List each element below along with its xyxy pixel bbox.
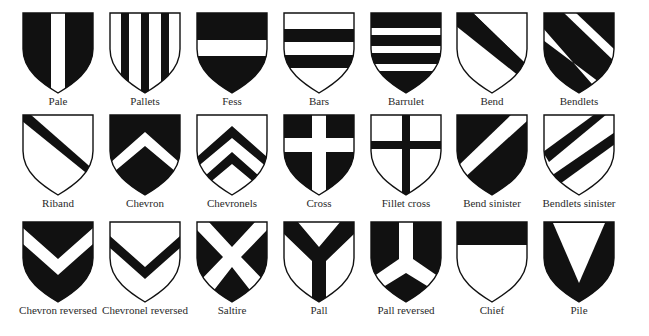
shield-label: Barrulet (363, 95, 449, 107)
shield-bend-sinister-icon (456, 114, 528, 196)
shield-bend-icon (456, 12, 528, 94)
shield-pale-icon (22, 12, 94, 94)
shield-cell-pile: Pile (536, 221, 622, 316)
shield-label: Chevronels (189, 197, 275, 209)
shield-cell-saltire: Saltire (189, 221, 275, 316)
shield-cell-bendlets: Bendlets (536, 12, 622, 107)
shield-chevronel-reversed-icon (109, 221, 181, 303)
shield-chevronels-icon (196, 114, 268, 196)
shield-cell-chevron-reversed: Chevron reversed (15, 221, 101, 316)
shield-label: Chevron (102, 197, 188, 209)
shield-chief-icon (456, 221, 528, 303)
shield-label: Bendlets (536, 95, 622, 107)
shield-cell-bend-sinister: Bend sinister (449, 114, 535, 209)
shield-cell-pall: Pall (276, 221, 362, 316)
shield-bars-icon (283, 12, 355, 94)
shield-label: Bend sinister (449, 197, 535, 209)
shield-cell-barrulet: Barrulet (363, 12, 449, 107)
shield-cell-fillet-cross: Fillet cross (363, 114, 449, 209)
shield-fess-icon (196, 12, 268, 94)
shield-label: Pile (536, 304, 622, 316)
shield-fillet-cross-icon (370, 114, 442, 196)
shield-cell-bend: Bend (449, 12, 535, 107)
shield-label: Pale (15, 95, 101, 107)
shield-cell-chevron: Chevron (102, 114, 188, 209)
shield-label: Chevron reversed (15, 304, 101, 316)
shield-label: Pall reversed (363, 304, 449, 316)
shield-cell-bendlets-sinister: Bendlets sinister (536, 114, 622, 209)
shield-cell-fess: Fess (189, 12, 275, 107)
shield-barrulet-icon (370, 12, 442, 94)
shield-bendlets-icon (543, 12, 615, 94)
shield-bendlets-sinister-icon (543, 114, 615, 196)
shield-label: Bars (276, 95, 362, 107)
shield-cell-chevronels: Chevronels (189, 114, 275, 209)
shield-chevron-reversed-icon (22, 221, 94, 303)
shield-label: Bendlets sinister (536, 197, 622, 209)
shield-label: Fess (189, 95, 275, 107)
shield-cell-pallets: Pallets (102, 12, 188, 107)
shield-label: Chief (449, 304, 535, 316)
shield-pall-reversed-icon (370, 221, 442, 303)
shield-saltire-icon (196, 221, 268, 303)
shield-pallets-icon (109, 12, 181, 94)
shield-label: Fillet cross (363, 197, 449, 209)
shield-cell-pall-reversed: Pall reversed (363, 221, 449, 316)
shield-pall-icon (283, 221, 355, 303)
shield-chevron-icon (109, 114, 181, 196)
shield-pile-icon (543, 221, 615, 303)
shield-cell-bars: Bars (276, 12, 362, 107)
shield-cell-chevronel-reversed: Chevronel reversed (102, 221, 188, 316)
shield-cell-chief: Chief (449, 221, 535, 316)
shield-label: Pall (276, 304, 362, 316)
shield-cell-riband: Riband (15, 114, 101, 209)
shield-cell-cross: Cross (276, 114, 362, 209)
shield-cell-pale: Pale (15, 12, 101, 107)
shield-label: Pallets (102, 95, 188, 107)
shield-label: Bend (449, 95, 535, 107)
shield-label: Cross (276, 197, 362, 209)
shield-cross-icon (283, 114, 355, 196)
shield-label: Saltire (189, 304, 275, 316)
shield-label: Riband (15, 197, 101, 209)
shield-riband-icon (22, 114, 94, 196)
shield-label: Chevronel reversed (102, 304, 188, 316)
